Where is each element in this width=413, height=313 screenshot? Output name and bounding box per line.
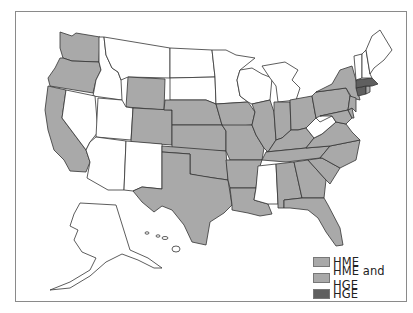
state-AZ[interactable] [86,137,126,190]
state-ND[interactable] [170,48,215,78]
state-WA[interactable] [60,32,100,62]
state-AK[interactable] [50,203,162,290]
legend-item-hme-and-hge: HME and HGE [313,270,413,286]
state-MS[interactable] [254,164,278,204]
legend-swatch-hme [313,257,330,267]
state-IA[interactable] [216,102,255,127]
state-CO[interactable] [131,108,172,145]
state-ME[interactable] [366,30,392,74]
state-NE[interactable] [164,100,222,125]
legend-swatch-hme-and-hge [313,273,330,283]
state-RI[interactable] [366,86,370,94]
state-FL[interactable] [284,198,343,246]
legend: HME HME and HGE HGE [313,254,413,302]
legend-swatch-hge [313,289,330,299]
state-WY[interactable] [126,77,165,110]
state-NM[interactable] [124,141,162,191]
legend-label: HGE [333,287,358,301]
state-HI[interactable] [145,232,180,252]
